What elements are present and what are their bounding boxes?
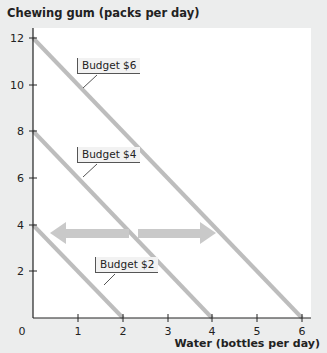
svg-text:0: 0	[19, 325, 26, 338]
svg-text:10: 10	[10, 79, 24, 92]
chart-canvas: 12108 642 012 345 6	[0, 0, 327, 353]
y-tick-labels: 12108 642	[10, 32, 24, 278]
svg-text:2: 2	[17, 265, 24, 278]
svg-text:2: 2	[120, 325, 127, 338]
svg-text:3: 3	[165, 325, 172, 338]
label-budget-4: Budget $4	[77, 147, 140, 163]
svg-text:1: 1	[75, 325, 82, 338]
svg-text:6: 6	[17, 172, 24, 185]
svg-text:12: 12	[10, 32, 24, 45]
label-budget-2: Budget $2	[95, 257, 158, 273]
svg-text:4: 4	[17, 219, 24, 232]
label-budget-6: Budget $6	[77, 58, 140, 74]
svg-text:8: 8	[17, 125, 24, 138]
x-axis-title: Water (bottles per day)	[175, 337, 320, 350]
